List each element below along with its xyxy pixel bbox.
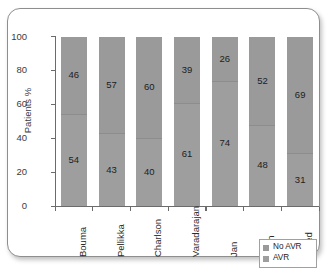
legend-item[interactable]: No AVR: [263, 242, 313, 253]
bar-group[interactable]: 4654: [61, 37, 87, 207]
bar-value-label-avr: 43: [99, 165, 125, 175]
bar-value-label-no-avr: 60: [136, 82, 162, 92]
x-axis-label: Varadarajan: [191, 206, 201, 257]
bar-value-label-no-avr: 69: [287, 90, 313, 100]
x-tick-mark: [92, 207, 93, 211]
legend-swatch-icon: [263, 245, 269, 251]
y-tick-label: 0: [1, 201, 27, 211]
x-tick-mark: [168, 207, 169, 211]
bar-group[interactable]: 6040: [136, 37, 162, 207]
plot-area: Patients % 020406080100 4654574360403961…: [8, 9, 319, 256]
y-tick-mark: [51, 138, 55, 139]
x-axis-label: Charlson: [153, 219, 163, 257]
y-tick-label: 40: [1, 133, 27, 143]
x-axis-label: Jan: [229, 242, 239, 257]
bar-value-label-no-avr: 39: [174, 65, 200, 75]
bar-value-label-no-avr: 26: [212, 54, 238, 64]
y-tick-label: 60: [1, 99, 27, 109]
x-tick-mark: [205, 207, 206, 211]
x-tick-mark: [55, 207, 56, 211]
x-axis-line: [55, 206, 319, 207]
bar-group[interactable]: 6931: [287, 37, 313, 207]
bar-value-label-avr: 40: [136, 167, 162, 177]
chart-figure: Patients % 020406080100 4654574360403961…: [0, 0, 333, 270]
legend-label: AVR: [273, 254, 289, 262]
chart-legend[interactable]: No AVRAVR: [259, 239, 317, 268]
y-tick-mark: [51, 36, 55, 37]
bar-group[interactable]: 5743: [99, 37, 125, 207]
figure-frame: Patients % 020406080100 4654574360403961…: [7, 8, 320, 257]
y-tick-mark: [51, 172, 55, 173]
bar-value-label-no-avr: 52: [249, 76, 275, 86]
bar-value-label-avr: 48: [249, 160, 275, 170]
y-axis-line: [55, 36, 56, 207]
bar-value-label-avr: 74: [212, 138, 238, 148]
x-tick-mark: [319, 207, 320, 211]
bar-value-label-avr: 54: [61, 155, 87, 165]
bar-value-label-avr: 31: [287, 175, 313, 185]
bar-value-label-avr: 61: [174, 149, 200, 159]
x-tick-mark: [281, 207, 282, 211]
x-tick-mark: [243, 207, 244, 211]
x-axis-label: Bouma: [78, 227, 88, 257]
y-tick-mark: [51, 70, 55, 71]
bar-group[interactable]: 5248: [249, 37, 275, 207]
bar-value-label-no-avr: 46: [61, 70, 87, 80]
x-tick-mark: [130, 207, 131, 211]
y-tick-label: 20: [1, 167, 27, 177]
bar-group[interactable]: 2674: [212, 37, 238, 207]
legend-swatch-icon: [263, 256, 269, 262]
legend-label: No AVR: [273, 243, 302, 251]
y-tick-label: 80: [1, 65, 27, 75]
legend-item[interactable]: AVR: [263, 253, 313, 264]
y-tick-mark: [51, 104, 55, 105]
bar-group[interactable]: 3961: [174, 37, 200, 207]
x-axis-label: Pellikka: [116, 224, 126, 257]
y-tick-label: 100: [1, 32, 27, 42]
bar-value-label-no-avr: 57: [99, 80, 125, 90]
